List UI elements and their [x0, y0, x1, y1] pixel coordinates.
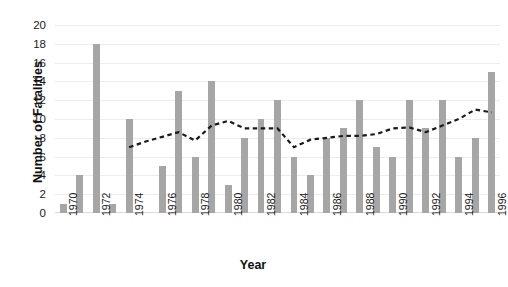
- x-tick-label: 1986: [331, 193, 343, 216]
- x-axis-tick-labels: 1970197219741976197819801982198419861988…: [55, 216, 500, 261]
- y-axis-tick-labels: 02468101214161820: [0, 25, 50, 213]
- y-tick-label: 6: [40, 151, 46, 163]
- y-tick-label: 20: [33, 19, 46, 31]
- y-tick-label: 2: [40, 188, 46, 200]
- x-tick-label: 1982: [265, 193, 277, 216]
- y-tick-label: 4: [40, 169, 46, 181]
- x-tick-label: 1972: [100, 193, 112, 216]
- plot-area: [55, 25, 500, 213]
- x-tick-label: 1980: [232, 193, 244, 216]
- x-tick-label: 1970: [67, 193, 79, 216]
- x-tick-label: 1990: [397, 193, 409, 216]
- y-tick-label: 12: [33, 94, 46, 106]
- y-tick-label: 0: [40, 207, 46, 219]
- x-tick-label: 1994: [463, 193, 475, 216]
- y-tick-label: 10: [33, 113, 46, 125]
- x-tick-label: 1984: [298, 193, 310, 216]
- x-tick-label: 1992: [430, 193, 442, 216]
- y-tick-label: 8: [40, 132, 46, 144]
- x-tick-label: 1976: [166, 193, 178, 216]
- y-tick-label: 14: [33, 75, 46, 87]
- x-tick-label: 1974: [133, 193, 145, 216]
- figure-caption: [0, 277, 506, 287]
- trend-line: [129, 110, 492, 148]
- x-axis-title: Year: [0, 258, 506, 272]
- trend-line-series: [55, 25, 500, 213]
- x-tick-label: 1988: [364, 193, 376, 216]
- x-tick-label: 1996: [496, 193, 508, 216]
- y-tick-label: 18: [33, 38, 46, 50]
- x-tick-label: 1978: [199, 193, 211, 216]
- y-tick-label: 16: [33, 57, 46, 69]
